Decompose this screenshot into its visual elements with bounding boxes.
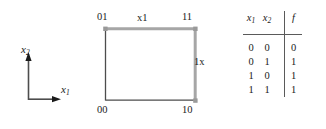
- cube-corner-label-00: 00: [97, 105, 108, 116]
- cell-x1: 1: [243, 69, 259, 83]
- cube-corner-label-10: 10: [182, 105, 193, 116]
- header-x1-subscript: 1: [251, 16, 255, 25]
- axes-svg: [0, 0, 95, 129]
- y-axis-label-subscript: 2: [26, 48, 30, 57]
- cube-edge-label-1x: 1x: [194, 57, 205, 68]
- rule-line-gap: [275, 34, 284, 35]
- x-axis-label: x1: [61, 84, 70, 95]
- truth-table-header-row: x1 x2 f: [243, 11, 302, 27]
- header-x2: x2: [259, 11, 275, 27]
- cell-f: 0: [285, 41, 303, 55]
- cube-edge-label-x1: x1: [137, 13, 148, 24]
- header-rule-left: [243, 27, 275, 41]
- cell-f: 1: [285, 83, 303, 97]
- truth-table-body: 0 0 0 0 1 1 1 0 1 1: [243, 41, 302, 97]
- header-f: f: [285, 11, 303, 27]
- rule-line-right: [285, 34, 302, 35]
- x-axis-label-subscript: 1: [66, 88, 70, 97]
- header-rule-gap: [275, 27, 285, 41]
- cell-x2: 1: [259, 83, 275, 97]
- cell-spacer: [275, 41, 285, 55]
- table-row: 0 0 0: [243, 41, 302, 55]
- axes-diagram: x2 x1: [0, 0, 95, 129]
- header-x2-subscript: 2: [267, 16, 271, 25]
- cell-f: 1: [285, 55, 303, 69]
- truth-table: x1 x2 f: [243, 11, 326, 101]
- cube-corner-label-11: 11: [182, 12, 192, 23]
- cell-x1: 1: [243, 83, 259, 97]
- truth-table-grid: x1 x2 f: [243, 11, 302, 97]
- cell-spacer: [275, 83, 285, 97]
- boolean-cube-diagram: 01 11 00 10 x1 1x: [95, 0, 220, 129]
- table-row: 1 0 1: [243, 69, 302, 83]
- figure-canvas: x2 x1 01 11 00 10 x1 1x: [0, 0, 326, 129]
- rule-line-left: [243, 34, 275, 35]
- cell-x1: 0: [243, 55, 259, 69]
- cell-f: 1: [285, 69, 303, 83]
- x-axis-arrowhead: [52, 96, 61, 102]
- cube-vertex-10: [193, 98, 197, 102]
- y-axis-label: x2: [21, 44, 30, 55]
- cell-x2: 1: [259, 55, 275, 69]
- table-row: 0 1 1: [243, 55, 302, 69]
- header-spacer: [275, 11, 285, 27]
- cell-x2: 0: [259, 41, 275, 55]
- cell-spacer: [275, 55, 285, 69]
- header-x1: x1: [243, 11, 259, 27]
- cell-x2: 0: [259, 69, 275, 83]
- cell-spacer: [275, 69, 285, 83]
- table-row: 1 1 1: [243, 83, 302, 97]
- cell-x1: 0: [243, 41, 259, 55]
- cube-vertex-11: [193, 27, 197, 31]
- cube-corner-label-01: 01: [97, 12, 108, 23]
- header-rule-right: [285, 27, 303, 41]
- truth-table-head: x1 x2 f: [243, 11, 302, 41]
- cube-vertex-01: [103, 27, 107, 31]
- truth-table-header-rule-row: [243, 27, 302, 41]
